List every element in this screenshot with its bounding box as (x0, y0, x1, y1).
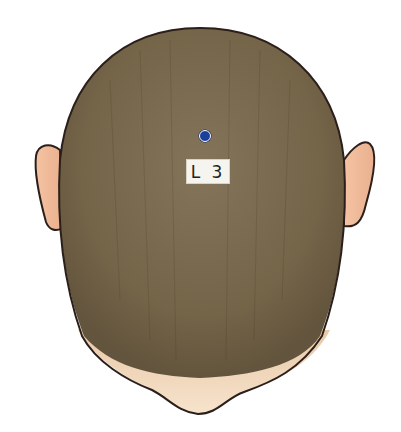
left-ear (36, 145, 62, 230)
hair (59, 28, 345, 378)
head-illustration (0, 0, 401, 432)
right-ear (344, 142, 374, 226)
acupoint-label: L 3 (186, 159, 230, 184)
acupoint-marker (199, 130, 211, 142)
